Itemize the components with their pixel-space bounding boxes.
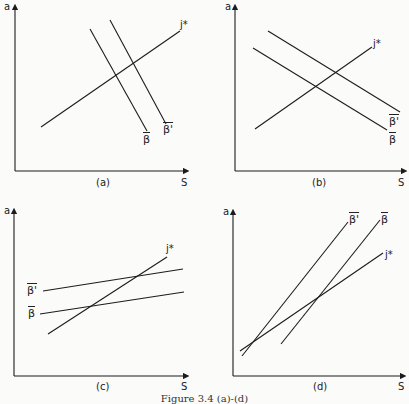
- panel-label: (d): [313, 381, 327, 392]
- line-label-j-star: j*: [373, 38, 381, 49]
- line-label-beta: β: [143, 134, 150, 145]
- line-label-beta-prime: β': [349, 214, 359, 225]
- line-label-beta-prime: β': [27, 285, 37, 296]
- line-beta: [253, 48, 387, 130]
- panel-label: (a): [96, 177, 110, 188]
- line-label-j-star: j*: [180, 19, 188, 30]
- panel-d: [233, 212, 403, 376]
- figure-caption: Figure 3.4 (a)-(d): [0, 393, 409, 404]
- panel-a: [15, 7, 186, 171]
- panel-label: (c): [96, 381, 109, 392]
- x-axis-label: S: [181, 381, 187, 392]
- line-label-beta-prime: β': [163, 124, 173, 135]
- x-axis-label: S: [181, 177, 187, 188]
- line-beta: [90, 29, 147, 131]
- line-j-star: [48, 257, 167, 334]
- line-label-beta-prime: β': [389, 116, 399, 127]
- line-label-beta: β: [381, 214, 388, 225]
- line-beta: [40, 292, 184, 314]
- line-beta-prime: [242, 222, 348, 356]
- panel-label: (b): [312, 177, 326, 188]
- line-label-beta: β: [28, 308, 35, 319]
- x-axis-label: S: [398, 381, 404, 392]
- y-axis-label: a: [223, 206, 229, 217]
- line-label-beta: β: [389, 134, 396, 145]
- y-axis-label: a: [225, 1, 231, 12]
- line-beta: [281, 220, 380, 344]
- y-axis-label: a: [4, 205, 10, 216]
- panel-b: [235, 7, 404, 171]
- y-axis-label: a: [4, 1, 10, 12]
- line-label-j-star: j*: [166, 243, 174, 254]
- x-axis-label: S: [398, 177, 404, 188]
- line-beta-prime: [43, 269, 183, 291]
- line-j-star: [41, 31, 180, 127]
- panel-c: [14, 211, 186, 376]
- line-label-j-star: j*: [385, 249, 393, 260]
- line-beta-prime: [110, 20, 166, 124]
